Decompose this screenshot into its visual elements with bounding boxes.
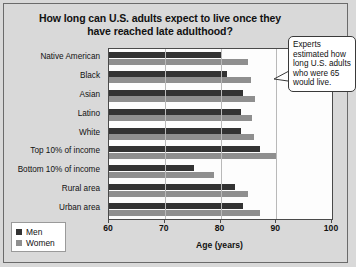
category-label: Urban area <box>0 199 104 218</box>
legend-swatch-women <box>16 240 22 246</box>
x-tick-label: 100 <box>324 223 338 233</box>
category-label: White <box>0 124 104 143</box>
category-label: Bottom 10% of income <box>0 161 104 180</box>
gridline <box>165 49 166 219</box>
bar-women <box>109 77 251 83</box>
bar-women <box>109 172 214 178</box>
gridline <box>276 49 277 219</box>
x-tick-label: 60 <box>103 223 113 233</box>
bar-women <box>109 115 252 121</box>
callout-note: Experts estimated how long U.S. adults w… <box>288 36 356 92</box>
bar-men <box>109 71 227 77</box>
x-tick-label: 80 <box>215 223 225 233</box>
x-axis-label: Age (years) <box>108 240 331 250</box>
category-label: Asian <box>0 86 104 105</box>
x-tick-label: 90 <box>270 223 280 233</box>
legend-item-men: Men <box>16 226 55 237</box>
bar-women <box>109 134 254 140</box>
bar-men <box>109 90 243 96</box>
legend-swatch-men <box>16 229 22 235</box>
bar-women <box>109 96 255 102</box>
bar-men <box>109 203 243 209</box>
category-label: Rural area <box>0 180 104 199</box>
bar-women <box>109 191 248 197</box>
chart-title: How long can U.S. adults expect to live … <box>30 12 290 37</box>
bar-men <box>109 146 260 152</box>
bar-women <box>109 59 248 65</box>
legend-label-men: Men <box>26 227 42 237</box>
category-label: Black <box>0 67 104 86</box>
gridline <box>221 49 222 219</box>
category-label: Native American <box>0 48 104 67</box>
bar-women <box>109 153 277 159</box>
bar-women <box>109 210 260 216</box>
x-tick-label: 70 <box>159 223 169 233</box>
bar-men <box>109 165 194 171</box>
x-axis-ticks: 60708090100 <box>108 219 333 237</box>
legend-item-women: Women <box>16 237 55 248</box>
category-label: Latino <box>0 105 104 124</box>
legend-label-women: Women <box>26 238 55 248</box>
bar-men <box>109 184 235 190</box>
category-axis: Native AmericanBlackAsianLatinoWhiteTop … <box>0 48 104 218</box>
legend: Men Women <box>11 222 66 252</box>
category-label: Top 10% of income <box>0 142 104 161</box>
